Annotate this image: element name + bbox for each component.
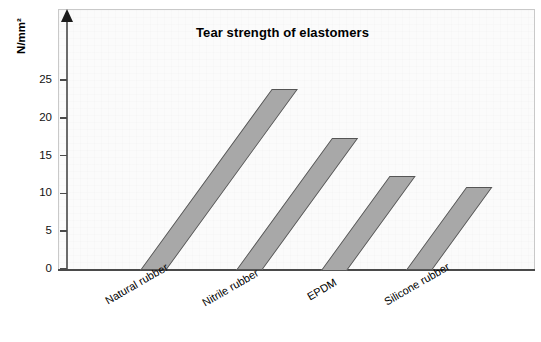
bars-layer <box>0 0 541 270</box>
chart-figure: N/mm² Tear strength of elastomers 051015… <box>0 0 541 342</box>
x-axis-label: Nitrile rubber <box>200 267 261 309</box>
bar <box>406 187 492 270</box>
bar <box>321 176 416 271</box>
x-axis-label: EPDM <box>305 276 339 302</box>
